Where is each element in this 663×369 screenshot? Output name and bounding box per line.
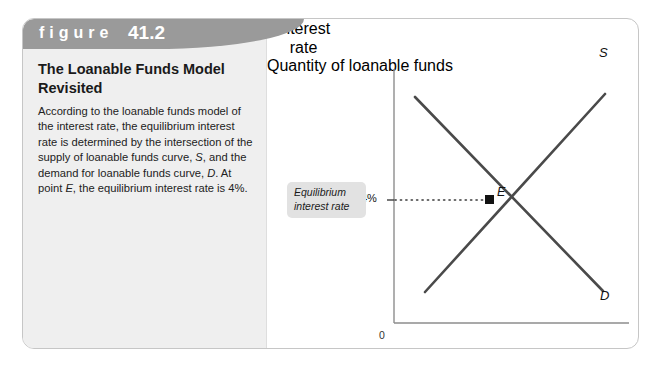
demand-curve-label: D bbox=[600, 288, 609, 303]
figure-header-label: figure bbox=[39, 24, 113, 42]
supply-curve bbox=[425, 94, 605, 292]
equilibrium-point-label: E bbox=[497, 185, 505, 199]
figure-caption: According to the loanable funds model of… bbox=[38, 104, 254, 197]
supply-curve-label: S bbox=[599, 45, 608, 60]
chart-plot-area: Interest rate Quantity of loanable funds… bbox=[267, 19, 638, 348]
figure-title: The Loanable Funds Model Revisited bbox=[38, 60, 253, 97]
origin-label: 0 bbox=[379, 329, 385, 341]
equilibrium-point-marker bbox=[485, 195, 494, 204]
equilibrium-callout: Equilibrium interest rate bbox=[287, 182, 366, 218]
figure-header-number: 41.2 bbox=[128, 22, 165, 44]
figure-frame: figure 41.2 The Loanable Funds Model Rev… bbox=[22, 18, 639, 349]
